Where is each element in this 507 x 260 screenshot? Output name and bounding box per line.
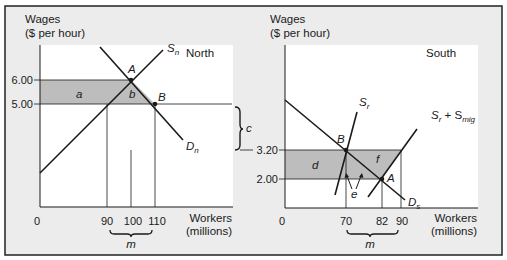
south-y-tick-320: 3.20 [257,144,278,156]
south-plot-area [285,45,478,208]
south-y-label-1: Wages [270,13,306,25]
south-x-label-1: Workers [434,212,477,224]
south-point-b-label: B [337,133,345,145]
south-x-tick-90: 90 [396,215,408,227]
migration-wage-figure: Wages ($ per hour) North Sn Dn A B a b 6… [0,0,507,260]
north-plot-area [40,45,233,207]
south-title: South [426,47,456,59]
south-point-b [344,148,349,153]
north-x-tick-0: 0 [34,215,40,227]
south-x-label-2: (millions) [431,225,477,237]
south-area-d-label: d [312,159,319,171]
south-y-tick-200: 2.00 [257,173,278,185]
figure-svg: Wages ($ per hour) North Sn Dn A B a b 6… [0,0,507,260]
south-m-label: m [365,238,375,250]
north-point-b [153,102,158,107]
south-point-a [380,177,385,182]
north-y-label-2: ($ per hour) [25,27,85,39]
north-point-a [129,78,134,83]
south-x-tick-70: 70 [340,215,352,227]
south-x-tick-82: 82 [376,215,388,227]
north-x-tick-90: 90 [101,215,113,227]
north-title: North [186,47,214,59]
north-x-label-1: Workers [189,212,232,224]
north-x-tick-100: 100 [124,215,142,227]
north-point-a-label: A [127,63,136,75]
north-m-label: m [126,238,136,250]
south-y-label-2: ($ per hour) [270,27,330,39]
north-y-tick-5: 5.00 [12,98,33,110]
north-area-b-label: b [129,88,136,100]
south-point-a-label: A [386,172,395,184]
c-label: c [246,122,252,134]
north-x-label-2: (millions) [186,225,232,237]
north-x-tick-110: 110 [148,215,166,227]
north-point-b-label: B [158,91,166,103]
south-area-e-label: e [351,188,357,200]
south-x-tick-0: 0 [279,215,285,227]
north-y-tick-6: 6.00 [12,74,33,86]
north-y-label-1: Wages [25,13,61,25]
north-area-a-label: a [76,88,82,100]
